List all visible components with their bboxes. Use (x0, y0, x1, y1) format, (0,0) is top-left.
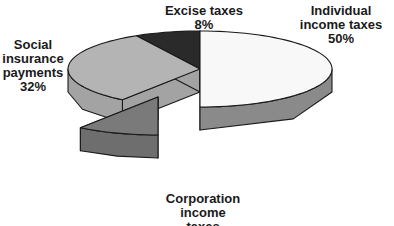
label-social-insurance-payments: Social insurance payments 32% (0, 38, 66, 94)
label-excise-taxes: Excise taxes 8% (150, 4, 258, 32)
label-corporation-income-taxes: Corporation income taxes 10% (154, 192, 252, 226)
label-individual-income-taxes: Individual income taxes 50% (288, 4, 394, 46)
